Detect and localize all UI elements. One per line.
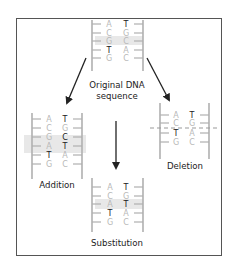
- svg-text:T: T: [173, 129, 179, 138]
- substitution-dna-ladder: A T C G A T T A G C: [92, 178, 143, 232]
- svg-text:A: A: [189, 129, 195, 138]
- dna-mutation-diagram: A T C G G C T A G C Original DNA sequenc…: [0, 0, 235, 267]
- svg-text:G: G: [62, 124, 68, 133]
- svg-text:C: C: [173, 119, 179, 128]
- svg-text:C: C: [46, 124, 52, 133]
- svg-text:A: A: [107, 183, 113, 192]
- addition-dna-ladder: A T C G G C A T T A G C: [24, 113, 86, 179]
- svg-text:C: C: [62, 133, 68, 142]
- svg-text:T: T: [46, 151, 52, 160]
- arrow-to-deletion-icon: [147, 58, 169, 100]
- svg-text:G: G: [189, 119, 195, 128]
- svg-text:T: T: [62, 115, 68, 124]
- original-label-line2: sequence: [96, 91, 137, 101]
- svg-text:C: C: [123, 218, 129, 227]
- svg-text:G: G: [106, 54, 112, 63]
- deletion-label: Deletion: [167, 161, 203, 171]
- svg-text:T: T: [107, 209, 113, 218]
- svg-text:C: C: [62, 160, 68, 169]
- svg-text:C: C: [123, 54, 129, 63]
- svg-text:C: C: [123, 37, 129, 46]
- svg-text:A: A: [107, 200, 113, 209]
- svg-text:G: G: [46, 133, 52, 142]
- substitution-label: Substitution: [91, 238, 143, 248]
- svg-text:A: A: [62, 151, 68, 160]
- svg-text:A: A: [106, 20, 112, 29]
- svg-text:C: C: [189, 138, 195, 147]
- highlight-band: [24, 135, 86, 153]
- svg-text:G: G: [107, 218, 113, 227]
- svg-text:T: T: [123, 200, 129, 209]
- svg-text:G: G: [106, 37, 112, 46]
- arrow-to-addition-icon: [67, 58, 86, 103]
- svg-text:G: G: [46, 160, 52, 169]
- deletion-dna-ladder: A T C G T A G C: [150, 103, 218, 159]
- svg-text:A: A: [123, 209, 129, 218]
- svg-text:A: A: [46, 142, 52, 151]
- svg-text:T: T: [123, 20, 129, 29]
- addition-label: Addition: [39, 180, 75, 190]
- original-label-line1: Original DNA: [89, 80, 144, 90]
- svg-text:G: G: [173, 138, 179, 147]
- svg-text:A: A: [46, 115, 52, 124]
- svg-text:T: T: [62, 142, 68, 151]
- svg-text:T: T: [123, 183, 129, 192]
- original-dna-ladder: A T C G G C T A G C: [92, 20, 143, 71]
